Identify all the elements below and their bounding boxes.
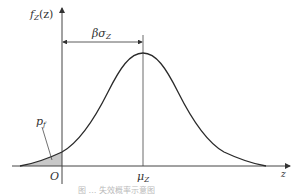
normal-pdf-diagram: fZ(z) βσZ pf O μZ z 图 … 失效概率示意图 <box>0 0 298 194</box>
failure-probability-region <box>20 152 62 166</box>
pf-leader-line <box>42 127 52 160</box>
x-axis-label: z <box>280 169 286 179</box>
pf-label: pf <box>36 115 47 129</box>
beta-sigma-label: βσZ <box>91 27 111 41</box>
origin-label: O <box>50 170 59 183</box>
figure-caption: 图 … 失效概率示意图 <box>78 185 155 194</box>
y-axis-label: fZ(z) <box>29 8 53 22</box>
mean-label: μZ <box>137 170 149 184</box>
